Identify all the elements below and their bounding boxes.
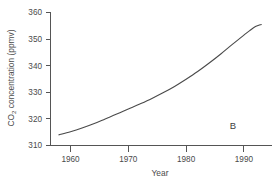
y-tick-label-340: 340: [28, 62, 42, 71]
axes-group: [51, 12, 273, 146]
y-tick-marks: [46, 13, 51, 146]
x-tick-label-1970: 1970: [119, 155, 138, 164]
co2-data-line: [59, 24, 261, 134]
x-tick-labels: 1960 1970 1980 1990: [61, 155, 253, 164]
panel-label-b: B: [230, 120, 236, 131]
x-tick-label-1990: 1990: [235, 155, 254, 164]
y-tick-label-360: 360: [28, 8, 42, 17]
y-tick-label-310: 310: [28, 141, 42, 150]
x-tick-label-1980: 1980: [177, 155, 196, 164]
y-tick-label-320: 320: [28, 115, 42, 124]
y-tick-labels: 310 320 330 340 350 360: [28, 8, 42, 150]
x-tick-marks: [71, 146, 244, 152]
y-axis-title: CO2 concentration (ppmv): [6, 29, 17, 126]
y-tick-label-330: 330: [28, 88, 42, 97]
y-axis-title-rest: concentration (ppmv): [6, 29, 16, 110]
co2-line-chart: 310 320 330 340 350 360 1960 1970 1980 1…: [0, 0, 279, 187]
figure-panel: 310 320 330 340 350 360 1960 1970 1980 1…: [0, 0, 279, 187]
y-tick-label-350: 350: [28, 35, 42, 44]
y-axis-title-main: CO: [6, 113, 16, 126]
x-tick-label-1960: 1960: [61, 155, 80, 164]
svg-text:CO2 concentration (ppmv): CO2 concentration (ppmv): [6, 29, 17, 126]
x-axis-title: Year: [152, 168, 169, 178]
